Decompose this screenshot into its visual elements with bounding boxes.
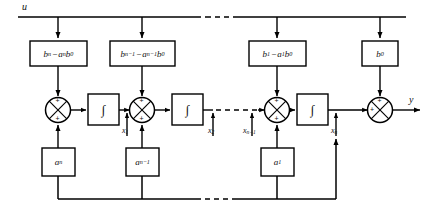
sum-1-plus-top: + [56,97,60,104]
state-label-xn-minus-1: xn−1 [243,127,256,136]
feedforward-to-sum-lines [58,66,380,96]
sum-n-plus-top: + [275,97,279,104]
feedforward-drop-lines [58,17,380,38]
feedforward-block-b-n1-minus-a-n1-b0[interactable]: bn−1−an−1b0 [110,41,175,66]
feedforward-block-b-1-minus-a-1-b0[interactable]: b1−a1b0 [249,41,306,66]
integrator-block-1[interactable]: ∫ [88,94,119,125]
feedback-block-a-1[interactable]: a1 [261,148,294,176]
state-label-x1: x1 [122,127,128,136]
state-label-xn: xn [331,127,337,136]
integrator-block-n[interactable]: ∫ [297,94,328,125]
feedforward-block-b-n-minus-a-n-b0[interactable]: bn−anb0 [30,41,87,66]
input-label-u: u [22,2,27,12]
sum-n-plus-bottom: + [275,115,279,122]
sum-2-plus-top: + [140,97,144,104]
block-diagram-canvas [0,0,427,213]
feedback-block-a-n-minus-1[interactable]: an−1 [126,148,159,176]
sum-output-plus-left: + [370,106,374,113]
sum-output-plus-top: + [378,97,382,104]
feedback-block-shapes [42,148,294,176]
sum-1-plus-bottom: + [56,115,60,122]
feedforward-block-b0[interactable]: b0 [362,41,398,66]
output-label-y: y [409,95,413,105]
state-label-x2: x2 [208,127,214,136]
sum-2-plus-bottom: + [140,115,144,122]
feedback-block-a-n[interactable]: an [42,148,75,176]
integrator-block-2[interactable]: ∫ [172,94,203,125]
